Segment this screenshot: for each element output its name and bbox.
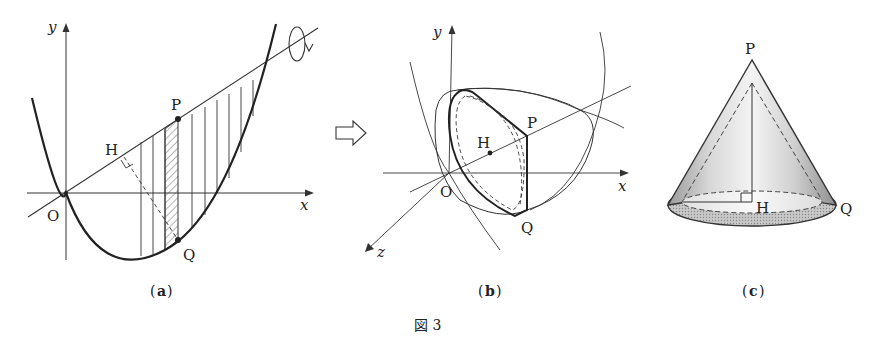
right-outline-arrow-icon bbox=[336, 121, 366, 145]
outer-surface bbox=[435, 88, 593, 214]
caption-b-close: ) bbox=[496, 283, 501, 299]
caption-c-letter: c bbox=[749, 283, 758, 299]
label-O: O bbox=[47, 207, 59, 225]
figure-caption: 図 3 bbox=[414, 317, 441, 333]
z-axis bbox=[367, 173, 449, 250]
label-H: H bbox=[477, 134, 490, 152]
figure-3: y x O H P Q ( a ) y bbox=[0, 0, 876, 341]
outer-top bbox=[458, 88, 624, 128]
caption-c-close: ) bbox=[759, 283, 764, 299]
panel-a: y x O H P Q ( a ) bbox=[27, 18, 318, 299]
caption-a-letter: a bbox=[157, 283, 166, 299]
label-Q: Q bbox=[840, 200, 852, 218]
label-P: P bbox=[745, 40, 755, 58]
point-Q bbox=[175, 237, 181, 243]
label-Q: Q bbox=[521, 219, 533, 237]
label-y: y bbox=[432, 23, 442, 41]
label-z: z bbox=[376, 243, 385, 261]
label-H: H bbox=[756, 199, 769, 217]
caption-c-open: ( bbox=[742, 283, 747, 299]
caption-a-open: ( bbox=[150, 283, 155, 299]
point-O bbox=[64, 191, 68, 195]
y-axis-arrow-icon bbox=[63, 23, 70, 32]
panel-b: y x z O H P Q ( b ) bbox=[365, 23, 631, 299]
line-OP bbox=[410, 86, 631, 192]
point-P bbox=[175, 116, 181, 122]
y-axis-arrow-icon bbox=[449, 25, 456, 34]
panel-c: P H Q ( c ) bbox=[668, 40, 852, 299]
parabola-right bbox=[530, 32, 605, 210]
label-O: O bbox=[440, 183, 452, 201]
x-axis-arrow-icon bbox=[620, 170, 629, 177]
label-x: x bbox=[300, 196, 309, 214]
label-P: P bbox=[171, 96, 181, 114]
label-y: y bbox=[47, 18, 57, 36]
caption-b-open: ( bbox=[478, 283, 483, 299]
label-H: H bbox=[105, 141, 118, 159]
label-Q: Q bbox=[183, 246, 195, 264]
label-x: x bbox=[618, 177, 627, 195]
label-P: P bbox=[527, 114, 537, 132]
parabola bbox=[32, 24, 276, 260]
caption-b-letter: b bbox=[485, 283, 495, 299]
caption-a-close: ) bbox=[167, 283, 172, 299]
right-angle-mark bbox=[121, 160, 133, 168]
